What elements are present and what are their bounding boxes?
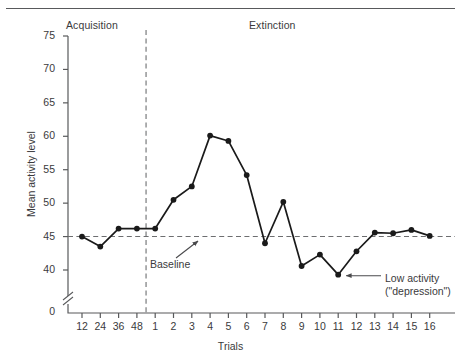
data-point xyxy=(97,244,103,250)
x-axis-line xyxy=(68,304,455,313)
data-point xyxy=(390,230,396,236)
data-point xyxy=(152,226,158,232)
data-point xyxy=(427,233,433,239)
data-point xyxy=(134,226,140,232)
data-point xyxy=(409,227,415,233)
chart-figure: Acquisition Extinction Mean activity lev… xyxy=(0,0,461,360)
data-line xyxy=(82,136,430,275)
plot-area xyxy=(0,0,461,360)
data-point xyxy=(226,138,232,144)
data-point xyxy=(372,230,378,236)
data-point xyxy=(280,199,286,205)
data-point xyxy=(317,252,323,258)
data-point xyxy=(79,234,85,240)
data-point xyxy=(207,133,213,139)
data-point xyxy=(299,263,305,269)
data-point xyxy=(171,197,177,203)
data-point xyxy=(354,248,360,254)
data-point xyxy=(262,240,268,246)
data-point xyxy=(116,226,122,232)
data-point xyxy=(335,272,341,278)
data-point xyxy=(189,184,195,190)
data-point xyxy=(244,172,250,178)
annotation-baseline-arrow xyxy=(176,241,198,258)
